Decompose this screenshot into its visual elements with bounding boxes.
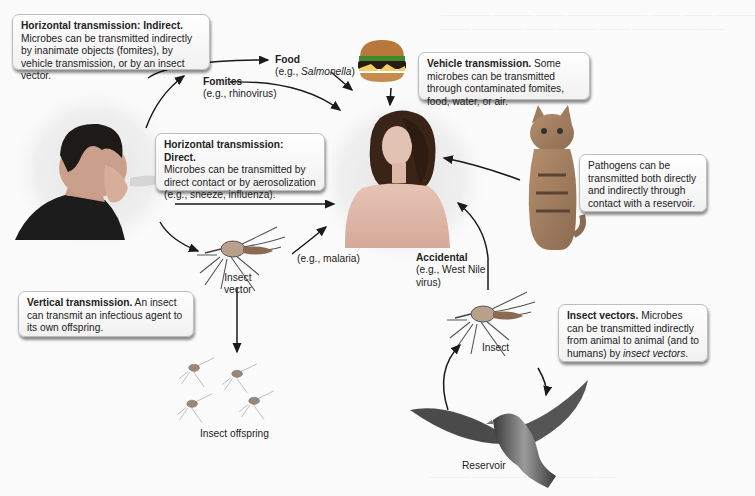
vehicle-transmission-heading: Vehicle transmission. — [427, 58, 531, 69]
arrow-cat-to-woman — [444, 158, 520, 180]
indirect-transmission-box: Horizontal transmission: Indirect. Micro… — [12, 14, 210, 70]
fomites-title: Fomites — [203, 76, 242, 87]
insect-vectors-box: Insect vectors. Microbes can be transmit… — [558, 304, 708, 362]
arrow-bird-to-insect — [444, 345, 460, 410]
food-title: Food — [275, 54, 300, 65]
reservoir-contact-box: Pathogens can be transmitted both direct… — [579, 154, 707, 212]
direct-transmission-heading: Horizontal transmission: Direct. — [164, 139, 283, 163]
direct-transmission-box: Horizontal transmission: Direct. Microbe… — [155, 133, 325, 191]
arrow-mosquito-to-woman — [292, 227, 326, 254]
food-example-italic: Salmonella — [301, 66, 351, 77]
arrow-accidental-to-woman — [458, 203, 488, 258]
vertical-transmission-heading: Vertical transmission. — [27, 297, 132, 308]
insect-offspring-label: Insect offspring — [200, 428, 269, 440]
insect-vector-line1: Insect — [224, 272, 251, 283]
insect-label: Insect — [482, 342, 509, 354]
insect-vectors-body-post: . — [685, 348, 688, 359]
insect-text: Insect — [482, 342, 509, 353]
insect-vectors-body-italic: insect vectors — [623, 348, 685, 359]
accidental-example-line1: (e.g., West Nile — [416, 264, 485, 275]
arrow-indirect-box-up — [146, 76, 184, 128]
malaria-example: (e.g., malaria) — [297, 253, 360, 264]
malaria-label: (e.g., malaria) — [297, 253, 360, 265]
arrow-insect-to-bird — [538, 368, 546, 395]
accidental-title: Accidental — [416, 252, 468, 263]
indirect-transmission-heading: Horizontal transmission: Indirect. — [21, 20, 183, 31]
fomites-example: (e.g., rhinovirus) — [203, 88, 277, 99]
food-example-post: ) — [351, 66, 354, 77]
accidental-example-line2: virus) — [416, 277, 441, 288]
fomites-label: Fomites (e.g., rhinovirus) — [203, 76, 277, 101]
vehicle-transmission-box: Vehicle transmission. Some microbes can … — [418, 52, 590, 100]
insect-vector-label: Insect vector — [224, 272, 252, 297]
arrow-burger-to-woman — [390, 88, 391, 105]
insect-vector-line2: vector — [224, 284, 252, 295]
food-label: Food (e.g., Salmonella) — [275, 54, 355, 79]
reservoir-contact-body: Pathogens can be transmitted both direct… — [588, 160, 696, 209]
insect-offspring-text: Insect offspring — [200, 428, 269, 439]
vertical-transmission-box: Vertical transmission. An insect can tra… — [18, 291, 194, 337]
accidental-label: Accidental (e.g., West Nile virus) — [416, 252, 485, 289]
arrow-man-to-mosquito — [160, 222, 198, 251]
food-example-pre: (e.g., — [275, 66, 301, 77]
insect-vectors-heading: Insect vectors. — [567, 310, 638, 321]
reservoir-label: Reservoir — [462, 460, 506, 472]
reservoir-text: Reservoir — [462, 460, 506, 471]
